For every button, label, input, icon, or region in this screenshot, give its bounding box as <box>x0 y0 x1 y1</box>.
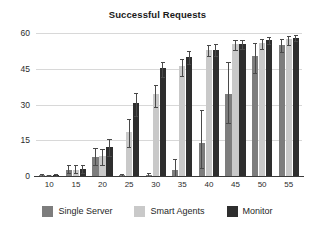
error-bar <box>235 40 236 50</box>
error-bar-cap <box>40 176 44 177</box>
error-bar-cap <box>187 51 191 52</box>
error-bar-cap <box>207 56 211 57</box>
error-bar-cap <box>67 173 71 174</box>
error-bar-cap <box>161 62 165 63</box>
error-bar-cap <box>294 35 298 36</box>
error-bar <box>82 165 83 174</box>
x-axis-tick-label: 20 <box>98 180 107 189</box>
error-bar-cap <box>154 107 158 108</box>
error-bar <box>95 148 96 165</box>
bar <box>232 44 238 176</box>
chart-container: Successful Requests 015304560 1015202530… <box>0 0 315 225</box>
error-bar <box>228 62 229 123</box>
error-bar-cap <box>200 110 204 111</box>
plot-area <box>36 33 302 176</box>
x-axis-tick-label: 40 <box>204 180 213 189</box>
error-bar-cap <box>180 59 184 60</box>
y-axis-tick-label: 60 <box>0 28 30 38</box>
error-bar-cap <box>74 165 78 166</box>
error-bar-cap <box>207 45 211 46</box>
error-bar <box>255 43 256 72</box>
error-bar-cap <box>173 176 177 177</box>
error-bar-cap <box>214 56 218 57</box>
error-bar <box>189 51 190 64</box>
error-bar <box>68 165 69 173</box>
error-bar-cap <box>233 50 237 51</box>
error-bar-cap <box>280 39 284 40</box>
legend-label: Smart Agents <box>150 206 204 216</box>
error-bar-cap <box>120 174 124 175</box>
error-bar-cap <box>294 41 298 42</box>
error-bar-cap <box>93 148 97 149</box>
error-bar-cap <box>260 39 264 40</box>
error-bar-cap <box>214 44 218 45</box>
error-bar-cap <box>93 165 97 166</box>
error-bar <box>109 139 110 156</box>
legend-swatch-icon <box>227 206 238 217</box>
error-bar-cap <box>54 176 58 177</box>
error-bar <box>208 45 209 56</box>
error-bar-cap <box>40 174 44 175</box>
legend-label: Monitor <box>243 206 273 216</box>
error-bar-cap <box>253 73 257 74</box>
error-bar <box>129 119 130 147</box>
error-bar-cap <box>267 37 271 38</box>
y-axis-tick-label: 0 <box>0 171 30 181</box>
bar <box>266 40 272 176</box>
error-bar-cap <box>233 40 237 41</box>
error-bar-cap <box>47 176 51 177</box>
error-bar-cap <box>147 176 151 177</box>
error-bar-cap <box>173 159 177 160</box>
error-bar <box>262 39 263 49</box>
error-bar-cap <box>107 139 111 140</box>
y-axis-tick-label: 30 <box>0 100 30 110</box>
error-bar-cap <box>147 173 151 174</box>
error-bar-cap <box>253 43 257 44</box>
y-axis-tick-label: 15 <box>0 135 30 145</box>
x-axis-tick-label: 15 <box>71 180 80 189</box>
error-bar <box>215 44 216 55</box>
error-bar <box>201 110 202 167</box>
chart-title: Successful Requests <box>0 9 315 20</box>
error-bar-cap <box>100 149 104 150</box>
x-axis-tick-label: 45 <box>231 180 240 189</box>
error-bar-cap <box>134 93 138 94</box>
legend-swatch-icon <box>42 206 53 217</box>
error-bar-cap <box>54 174 58 175</box>
error-bar-cap <box>187 64 191 65</box>
error-bar <box>75 165 76 174</box>
error-bar-cap <box>74 173 78 174</box>
x-axis-tick-label: 55 <box>284 180 293 189</box>
error-bar-cap <box>240 40 244 41</box>
error-bar <box>182 59 183 76</box>
error-bar-cap <box>226 62 230 63</box>
error-bar-cap <box>81 173 85 174</box>
legend-item[interactable]: Smart Agents <box>134 206 204 217</box>
error-bar-cap <box>260 49 264 50</box>
error-bar <box>242 40 243 49</box>
error-bar-cap <box>280 52 284 53</box>
error-bar <box>136 93 137 117</box>
error-bar <box>281 39 282 52</box>
error-bar <box>175 159 176 176</box>
legend-item[interactable]: Single Server <box>42 206 112 217</box>
y-axis-tick-label: 45 <box>0 64 30 74</box>
legend-item[interactable]: Monitor <box>227 206 273 217</box>
x-axis-line <box>34 176 304 177</box>
x-axis-tick-label: 10 <box>45 180 54 189</box>
error-bar-cap <box>127 119 131 120</box>
x-axis-tick-label: 50 <box>258 180 267 189</box>
bar <box>186 57 192 176</box>
chart-legend: Single ServerSmart AgentsMonitor <box>0 202 315 220</box>
x-axis-tick-label: 35 <box>178 180 187 189</box>
x-axis-tick-label: 30 <box>151 180 160 189</box>
error-bar-cap <box>67 165 71 166</box>
legend-label: Single Server <box>58 206 112 216</box>
bar <box>252 56 258 176</box>
bar <box>206 50 212 176</box>
error-bar <box>155 85 156 107</box>
error-bar-cap <box>267 44 271 45</box>
error-bar-cap <box>81 165 85 166</box>
bar <box>259 43 265 176</box>
bar <box>239 44 245 176</box>
